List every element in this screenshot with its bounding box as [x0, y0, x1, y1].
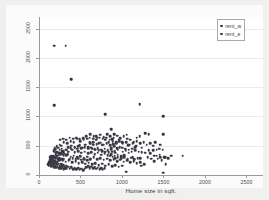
data-point-rent_e — [136, 157, 139, 160]
x-axis-label: Home size in sqft. — [39, 187, 263, 194]
data-point-rent_e — [94, 162, 97, 165]
data-point-rent_e — [81, 161, 84, 164]
data-point-rent_e — [149, 142, 152, 145]
data-point-rent_w — [162, 133, 165, 136]
data-point-rent_e — [87, 152, 90, 155]
y-tick-label: 2500 — [20, 25, 36, 31]
data-point-rent_e — [103, 167, 106, 170]
data-point-rent_e — [94, 149, 97, 152]
data-point-rent_e — [62, 137, 65, 140]
data-point-rent_e — [164, 163, 167, 166]
x-tick-label: 2000 — [199, 179, 211, 185]
data-point-rent_e — [97, 149, 100, 152]
x-tick — [122, 175, 123, 178]
data-point-rent_e — [112, 136, 115, 139]
data-point-rent_e — [63, 158, 66, 161]
data-point-rent_e — [65, 148, 68, 151]
data-point-rent_e — [146, 143, 149, 146]
data-point-rent_e — [136, 140, 139, 143]
data-point-rent_e — [77, 145, 80, 148]
data-point-rent_e — [65, 139, 68, 142]
data-point-rent_e — [152, 149, 155, 152]
data-point-rent_w — [162, 115, 165, 118]
data-point-rent_e — [139, 161, 142, 164]
data-point-rent_e — [100, 153, 103, 156]
data-point-rent_e — [140, 164, 143, 167]
data-point-rent_e — [78, 138, 81, 141]
data-point-rent_e — [129, 139, 132, 142]
legend[interactable]: rent_w rent_e — [217, 19, 245, 41]
data-point-rent_e — [80, 151, 83, 154]
data-point-rent_w — [159, 143, 162, 146]
data-point-rent_e — [126, 157, 129, 160]
data-point-rent_w — [69, 147, 72, 150]
data-point-rent_e — [158, 153, 161, 156]
data-point-rent_e — [141, 151, 144, 154]
data-point-rent_e — [92, 141, 95, 144]
data-point-rent_e — [116, 160, 119, 163]
legend-item-rent-e[interactable]: rent_e — [220, 30, 241, 38]
data-point-rent_e — [90, 151, 93, 154]
data-point-rent_e — [131, 147, 134, 150]
data-point-rent_w — [144, 132, 147, 135]
data-point-rent_e — [92, 137, 95, 140]
graph-region: 05001000150020002500 0500100015002000250… — [6, 5, 263, 188]
data-point-rent_e — [70, 144, 73, 147]
data-point-rent_w — [70, 78, 73, 81]
data-point-rent_e — [104, 150, 107, 153]
x-axis-line — [39, 175, 263, 176]
data-point-rent_e — [160, 159, 163, 162]
legend-item-rent-w[interactable]: rent_w — [220, 22, 241, 30]
data-point-rent_w — [53, 104, 56, 107]
data-point-rent_e — [131, 142, 134, 145]
data-point-rent_e — [102, 137, 105, 140]
data-point-rent_e — [143, 163, 146, 166]
data-point-rent_e — [109, 144, 112, 147]
data-point-rent_e — [71, 161, 74, 164]
data-point-rent_e — [135, 144, 138, 147]
data-point-rent_w — [139, 135, 142, 138]
data-point-rent_e — [75, 136, 78, 139]
data-point-rent_e — [122, 160, 125, 163]
y-tick — [36, 58, 39, 59]
x-tick-label: 500 — [76, 179, 85, 185]
data-point-rent_e — [102, 158, 105, 161]
data-point-rent_e — [149, 152, 152, 155]
y-tick — [36, 175, 39, 176]
data-point-rent_e — [164, 156, 167, 159]
data-point-rent_w — [125, 170, 128, 173]
y-axis-line — [39, 17, 40, 175]
data-point-rent_e — [118, 140, 121, 143]
data-point-rent_w — [147, 133, 150, 136]
data-point-rent_e — [68, 136, 71, 139]
data-point-rent_e — [120, 157, 123, 160]
data-point-rent_e — [80, 147, 83, 150]
data-point-rent_e — [98, 136, 101, 139]
data-point-rent_e — [130, 156, 133, 159]
data-point-rent_e — [88, 136, 91, 139]
data-point-rent_e — [85, 135, 88, 138]
data-point-rent_e — [133, 158, 136, 161]
data-point-rent_w — [139, 157, 142, 160]
data-point-rent_w — [104, 139, 107, 142]
data-point-rent_e — [64, 160, 67, 163]
data-point-rent_e — [73, 151, 76, 154]
data-point-rent_e — [161, 149, 164, 152]
data-point-rent_w — [181, 154, 184, 157]
x-tick-label: 2500 — [240, 179, 252, 185]
data-point-rent_e — [89, 133, 92, 136]
data-point-rent_e — [87, 161, 90, 164]
data-point-rent_e — [96, 158, 99, 161]
data-point-rent_e — [134, 149, 137, 152]
data-point-rent_w — [162, 171, 165, 174]
y-tick-label: 2000 — [20, 54, 36, 60]
data-point-rent_e — [93, 153, 96, 156]
data-point-rent_e — [146, 156, 149, 159]
data-point-rent_w — [125, 133, 128, 136]
data-point-rent_e — [112, 143, 115, 146]
gridline — [39, 87, 263, 88]
data-point-rent_e — [109, 135, 112, 138]
y-tick — [36, 29, 39, 30]
data-point-rent_e — [167, 157, 170, 160]
y-tick-label: 1000 — [20, 112, 36, 118]
